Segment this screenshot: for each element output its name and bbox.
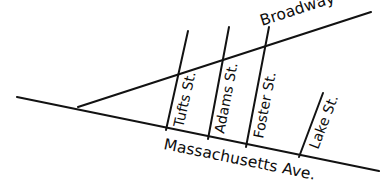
road-label-tufts-st: Tufts St. xyxy=(170,70,199,130)
road-label-broadway: Broadway xyxy=(258,0,337,30)
road-label-lake-st: Lake St. xyxy=(306,92,341,151)
street-map-figure: Broadway Massachusetts Ave. Tufts St. Ad… xyxy=(0,0,385,184)
street-map-canvas: Broadway Massachusetts Ave. Tufts St. Ad… xyxy=(0,0,385,184)
